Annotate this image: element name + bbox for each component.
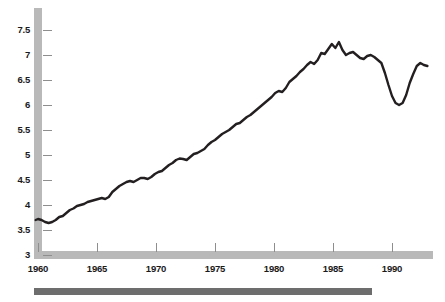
y-axis-tick	[43, 180, 52, 181]
x-axis-label: 1965	[77, 263, 117, 274]
y-axis-label: 4	[0, 199, 30, 210]
x-axis-label: 1985	[313, 263, 353, 274]
x-axis-bar	[34, 251, 433, 259]
y-axis-label: 6.5	[0, 74, 30, 85]
y-axis-tick	[43, 155, 52, 156]
y-axis-tick	[43, 105, 52, 106]
x-axis-tick	[333, 243, 334, 252]
y-axis-label: 7.5	[0, 24, 30, 35]
y-axis-label: 6	[0, 99, 30, 110]
x-axis-tick	[392, 243, 393, 252]
y-axis-label: 7	[0, 49, 30, 60]
y-axis-label: 3.5	[0, 224, 30, 235]
x-axis-tick	[38, 243, 39, 252]
y-axis-tick	[43, 30, 52, 31]
x-axis-tick	[156, 243, 157, 252]
x-axis-tick	[215, 243, 216, 252]
x-axis-label: 1975	[195, 263, 235, 274]
x-axis-label: 1980	[254, 263, 294, 274]
y-axis-tick	[43, 230, 52, 231]
series-line-1	[36, 42, 428, 223]
y-axis-label: 5.5	[0, 124, 30, 135]
y-axis-tick	[43, 255, 52, 256]
x-axis-label: 1970	[136, 263, 176, 274]
x-axis-label: 1960	[18, 263, 58, 274]
y-axis-label: 3	[0, 249, 30, 260]
x-axis-tick	[274, 243, 275, 252]
chart-container: 33.544.555.566.577.5 1960196519701975198…	[0, 0, 445, 302]
y-axis-tick	[43, 130, 52, 131]
y-axis-label: 5	[0, 149, 30, 160]
y-axis-tick	[43, 80, 52, 81]
x-axis-label: 1990	[372, 263, 412, 274]
y-axis-bar	[34, 8, 42, 259]
y-axis-label: 4.5	[0, 174, 30, 185]
y-axis-tick	[43, 205, 52, 206]
footer-rule	[34, 288, 372, 295]
x-axis-tick	[97, 243, 98, 252]
y-axis-tick	[43, 55, 52, 56]
